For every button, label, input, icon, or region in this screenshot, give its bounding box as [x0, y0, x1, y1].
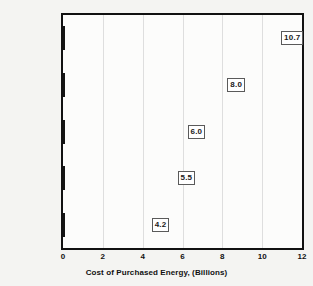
bar-row — [63, 213, 147, 237]
x-tick-label: 8 — [207, 253, 237, 261]
x-tick-label: 4 — [128, 253, 158, 261]
x-tick-label: 10 — [247, 253, 277, 261]
x-tick-label: 12 — [287, 253, 313, 261]
bar-row — [63, 73, 222, 97]
x-tick-label: 6 — [168, 253, 198, 261]
bar-row — [63, 166, 173, 190]
bar-value-label: 6.0 — [188, 125, 206, 139]
bar-row — [63, 120, 183, 144]
bar-chart: 10.78.06.05.54.2 Cost of Purchased Energ… — [0, 0, 313, 286]
bar-chemicals — [63, 26, 65, 50]
bar-primary-metals — [63, 73, 65, 97]
bar-value-label: 5.5 — [178, 171, 196, 185]
bar-value-label: 8.0 — [227, 78, 245, 92]
x-axis-title: Cost of Purchased Energy, (Billions) — [0, 268, 313, 277]
bar-paper — [63, 120, 65, 144]
bar-value-label: 4.2 — [152, 218, 170, 232]
bar-food — [63, 166, 65, 190]
bar-petroleum — [63, 213, 65, 237]
x-tick-label: 0 — [48, 253, 78, 261]
x-tick-label: 2 — [88, 253, 118, 261]
bar-value-label: 10.7 — [281, 31, 303, 45]
plot-area: 10.78.06.05.54.2 — [61, 13, 304, 250]
bar-row — [63, 26, 276, 50]
